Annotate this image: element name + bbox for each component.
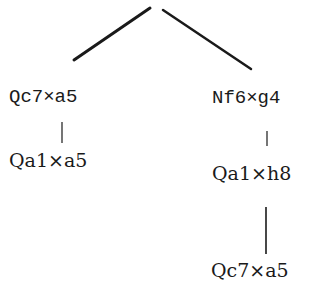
move-tree-diagram: Qc7×a5 Qa1×a5 Nf6×g4 Qa1×h8 Qc7×a5 — [0, 0, 311, 299]
node-right-2: Qa1×h8 — [212, 164, 291, 183]
node-right-1: Nf6×g4 — [212, 89, 280, 108]
edge-root-to-left — [74, 8, 150, 60]
node-left-2: Qa1×a5 — [9, 151, 87, 170]
node-left-1: Qc7×a5 — [9, 88, 77, 107]
node-right-3: Qc7×a5 — [211, 261, 289, 280]
edge-root-to-right — [163, 10, 251, 69]
